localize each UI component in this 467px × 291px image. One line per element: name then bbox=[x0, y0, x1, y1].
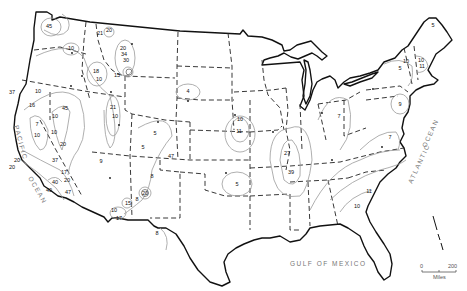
contour-label: 40 bbox=[46, 187, 52, 193]
contour-label: 7 bbox=[337, 113, 340, 119]
contour-label: 10 bbox=[96, 76, 102, 82]
contour-label: 17 bbox=[116, 215, 122, 221]
contour-label: 10 bbox=[403, 58, 409, 64]
contour-label: 10 bbox=[237, 116, 243, 122]
contour-label: 17 bbox=[61, 169, 67, 175]
contour-label: 20 bbox=[60, 141, 66, 147]
contour-label: 47 bbox=[168, 153, 174, 159]
contour-label: 8 bbox=[155, 230, 158, 236]
contour-label: 10 bbox=[112, 113, 118, 119]
scale-end: 200 bbox=[448, 263, 457, 269]
contour-label: 20 bbox=[64, 177, 70, 183]
contour-labels: 45 10 21 20 20 34 30 18 10 15 37 10 16 4… bbox=[9, 22, 435, 236]
contour-label: 21 bbox=[110, 104, 116, 110]
pacific-ocean-label: PACIFIC bbox=[13, 124, 29, 160]
contour-label: 5 bbox=[235, 181, 238, 187]
contour-label: 9 bbox=[99, 158, 102, 164]
contour-label: 20 bbox=[142, 190, 148, 196]
contour-label: 20 bbox=[106, 27, 112, 33]
us-contour-map: 45 10 21 20 20 34 30 18 10 15 37 10 16 4… bbox=[0, 0, 467, 291]
contour-label: 37 bbox=[52, 157, 58, 163]
scale-unit: Miles bbox=[433, 274, 446, 280]
contour-label: 37 bbox=[9, 89, 15, 95]
contour-label: 4 bbox=[186, 88, 189, 94]
gulf-of-mexico-label: GULF OF MEXICO bbox=[290, 260, 367, 267]
contour-label: 11 bbox=[419, 63, 425, 69]
contour-label: 5 bbox=[431, 22, 434, 28]
contour-label: 16 bbox=[29, 102, 35, 108]
contour-label: 5 bbox=[398, 65, 401, 71]
contour-label: 20 bbox=[9, 164, 15, 170]
contour-label: 18 bbox=[93, 68, 99, 74]
coast-mark bbox=[433, 216, 443, 250]
contour-label: 5 bbox=[153, 130, 156, 136]
contour-label: 40 bbox=[52, 179, 58, 185]
state-borders bbox=[22, 22, 418, 230]
contour-label: 20 bbox=[14, 157, 20, 163]
contour-label: 10 bbox=[52, 113, 58, 119]
station-markers bbox=[70, 43, 383, 179]
contour-label: 10 bbox=[68, 45, 74, 51]
contour-label: 10 bbox=[354, 203, 360, 209]
contour-label: 10 bbox=[111, 207, 117, 213]
contour-label: 8 bbox=[150, 173, 153, 179]
contour-label: 10 bbox=[51, 129, 57, 135]
contour-label: 11 bbox=[236, 128, 242, 134]
contour-label: 27 bbox=[284, 150, 290, 156]
contour-label: 10 bbox=[34, 132, 40, 138]
contour-label: 47 bbox=[65, 189, 71, 195]
atlantic-ocean-label: ATLANTIC bbox=[407, 143, 431, 185]
contour-label: 21 bbox=[97, 30, 103, 36]
contour-label: 30 bbox=[123, 57, 129, 63]
scale-bar: 0 200 Miles bbox=[420, 263, 457, 280]
contour-label: 15 bbox=[125, 200, 131, 206]
contour-label: 7 bbox=[388, 134, 391, 140]
contour-label: 45 bbox=[46, 23, 52, 29]
scale-start: 0 bbox=[420, 263, 423, 269]
contour-label: 8 bbox=[135, 196, 138, 202]
us-outline bbox=[14, 12, 452, 286]
contour-label: 15 bbox=[114, 72, 120, 78]
contour-label: 5 bbox=[141, 144, 144, 150]
contour-label: 11 bbox=[366, 188, 372, 194]
atlantic-ocean-label: OCEAN bbox=[421, 118, 440, 149]
contour-label: 39 bbox=[288, 169, 294, 175]
contour-label: 10 bbox=[35, 88, 41, 94]
contour-label: 9 bbox=[398, 101, 401, 107]
contour-label: 45 bbox=[62, 105, 68, 111]
contour-label: 7 bbox=[35, 121, 38, 127]
